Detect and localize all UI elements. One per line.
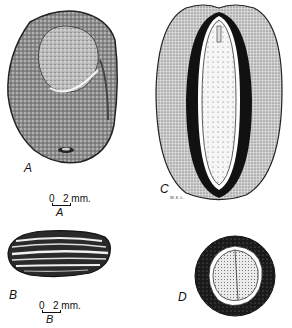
seed-illustration-d bbox=[190, 230, 280, 320]
seed-illustration-b bbox=[0, 225, 146, 285]
panel-label-d: D bbox=[178, 290, 187, 304]
scale-bar-a: 0 2 mm. A bbox=[49, 193, 99, 223]
panel-label-a: A bbox=[24, 161, 32, 175]
seed-illustration-c bbox=[146, 0, 292, 205]
seed-illustration-a bbox=[0, 0, 146, 170]
panel-label-c: C bbox=[160, 182, 169, 196]
scale-label: A bbox=[56, 206, 63, 218]
panel-label-b: B bbox=[9, 288, 17, 302]
scale-bar-b: 0 2 mm. B bbox=[39, 300, 89, 328]
artist-initials: W.K.L. bbox=[170, 195, 185, 200]
scale-label: B bbox=[46, 313, 53, 325]
